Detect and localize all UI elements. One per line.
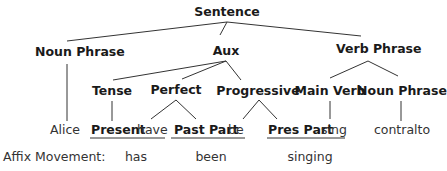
node-main-verb: Main Verb — [295, 85, 366, 98]
node-sentence: Sentence — [194, 6, 260, 19]
leaf-be: be — [228, 124, 244, 137]
node-noun-phrase-object: Noun Phrase — [357, 85, 447, 98]
leaf-have: have — [137, 124, 168, 137]
node-perfect: Perfect — [150, 84, 201, 97]
leaf-contralto: contralto — [374, 124, 430, 137]
node-noun-phrase-subject: Noun Phrase — [35, 46, 125, 59]
node-tense: Tense — [92, 85, 132, 98]
affix-movement-label: Affix Movement: — [3, 151, 105, 164]
node-verb-phrase: Verb Phrase — [336, 43, 422, 56]
affix-result-been: been — [195, 151, 226, 164]
node-aux: Aux — [213, 45, 240, 58]
node-progressive: Progressive — [216, 85, 299, 98]
leaf-alice: Alice — [50, 124, 80, 137]
affix-result-singing: singing — [287, 151, 332, 164]
leaf-sing: sing — [321, 124, 347, 137]
affix-result-has: has — [125, 151, 147, 164]
